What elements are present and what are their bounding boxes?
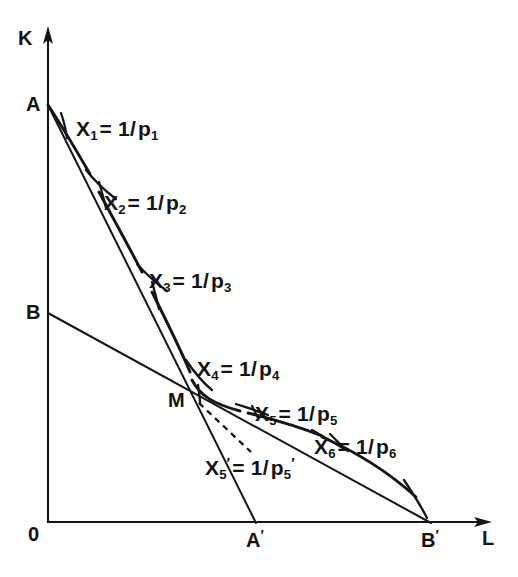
axis-label-k: K: [18, 28, 32, 48]
curve-label-x6-den: p: [376, 435, 389, 458]
curve-label-x5p-sub: 5: [219, 467, 226, 482]
curve-label-x5p-var: X: [205, 456, 219, 479]
axis-label-l: L: [482, 528, 494, 548]
curve-label-x1-eq: = 1/: [98, 117, 138, 140]
point-label-a: A: [26, 94, 40, 114]
curve-label-x4-sub: 4: [211, 368, 218, 383]
curve-label-x3-den-sub: 3: [224, 280, 231, 295]
isoquant-tick-4a: [198, 385, 200, 404]
point-label-b: B: [26, 302, 40, 322]
point-label-b-prime-base: B: [421, 529, 435, 551]
curve-label-x6-var: X: [314, 435, 328, 458]
curve-label-x3: X3= 1/p3: [149, 270, 231, 294]
curve-label-x1-den: p: [138, 117, 151, 140]
curve-label-x2-den: p: [166, 191, 179, 214]
isoquant-figure: K L 0 A B M A′ B′ X1= 1/p1 X2= 1/p2 X3= …: [0, 0, 518, 577]
curve-label-x4-var: X: [197, 357, 211, 380]
axes-group: [43, 26, 492, 527]
point-label-m: M: [168, 390, 185, 410]
curve-label-x1-sub: 1: [90, 128, 97, 143]
curve-label-x3-sub: 3: [163, 280, 170, 295]
curve-label-x2: X2= 1/p2: [104, 192, 186, 216]
curve-label-x5-var: X: [255, 402, 269, 425]
figure-canvas: [0, 0, 518, 577]
prime-mark-b: ′: [435, 527, 438, 543]
curve-label-x4: X4= 1/p4: [197, 358, 279, 382]
curve-label-x2-eq: = 1/: [126, 191, 166, 214]
curve-label-x6-eq: = 1/: [336, 435, 376, 458]
curve-label-x6-sub: 6: [328, 446, 335, 461]
curve-label-x5p-eq: = 1/: [230, 456, 270, 479]
point-label-a-prime: A′: [246, 528, 264, 550]
curve-label-x6-den-sub: 6: [389, 446, 396, 461]
curve-label-x1: X1= 1/p1: [76, 118, 158, 142]
curve-label-x5p-den: p: [271, 456, 284, 479]
curve-label-x5: X5= 1/p5: [255, 403, 337, 427]
point-label-b-prime: B′: [421, 528, 439, 550]
curve-label-x2-var: X: [104, 191, 118, 214]
curve-label-x2-sub: 2: [118, 202, 125, 217]
curve-label-x5-den-sub: 5: [330, 413, 337, 428]
isoquant-tick-6b: [404, 480, 427, 518]
curve-label-x4-eq: = 1/: [219, 357, 259, 380]
curve-label-x5-sub: 5: [269, 413, 276, 428]
curve-label-x5-den: p: [317, 402, 330, 425]
curve-label-x2-den-sub: 2: [179, 202, 186, 217]
curve-label-x5-prime: X5′= 1/p5′: [205, 456, 295, 481]
point-label-a-prime-base: A: [246, 529, 260, 551]
curve-label-x1-den-sub: 1: [151, 128, 158, 143]
curve-label-x3-eq: = 1/: [171, 269, 211, 292]
curve-label-x3-var: X: [149, 269, 163, 292]
curve-label-x6: X6= 1/p6: [314, 436, 396, 460]
prime-mark-a: ′: [260, 527, 263, 543]
curve-label-x4-den: p: [259, 357, 272, 380]
origin-label: 0: [28, 524, 39, 544]
curve-label-x3-den: p: [211, 269, 224, 292]
curve-label-x5p-den-prime: ′: [291, 455, 295, 471]
curve-label-x1-var: X: [76, 117, 90, 140]
curve-label-x5-eq: = 1/: [277, 402, 317, 425]
curve-label-x4-den-sub: 4: [272, 368, 279, 383]
